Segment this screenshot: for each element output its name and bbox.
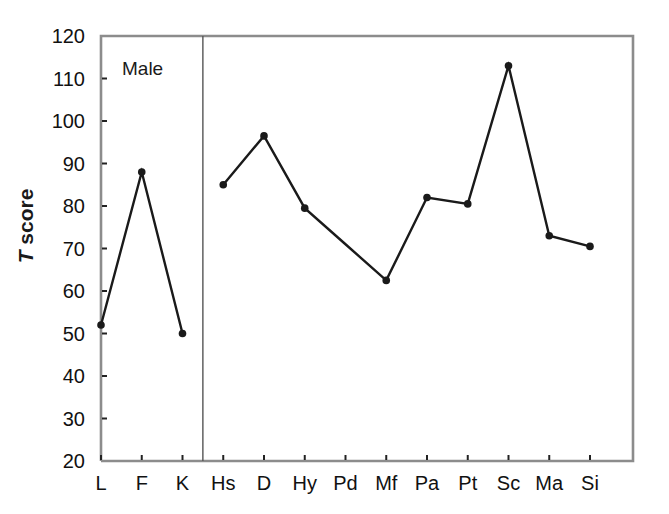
data-point-marker: [97, 321, 105, 329]
data-point-marker: [464, 200, 472, 208]
plot-area: [0, 0, 669, 514]
plot-frame: [101, 36, 633, 461]
data-line-segment-1: [223, 66, 590, 281]
data-point-marker: [382, 277, 390, 285]
data-point-marker: [138, 168, 146, 176]
chart-figure: T score Male 2030405060708090100110120 L…: [0, 0, 669, 514]
data-point-marker: [260, 132, 268, 140]
data-line-segment-0: [101, 172, 183, 334]
data-point-marker: [505, 62, 513, 70]
data-point-marker: [545, 232, 553, 240]
data-point-marker: [219, 181, 227, 189]
data-point-marker: [423, 194, 431, 202]
data-point-marker: [586, 243, 594, 251]
data-point-marker: [301, 204, 309, 212]
data-point-marker: [179, 330, 187, 338]
